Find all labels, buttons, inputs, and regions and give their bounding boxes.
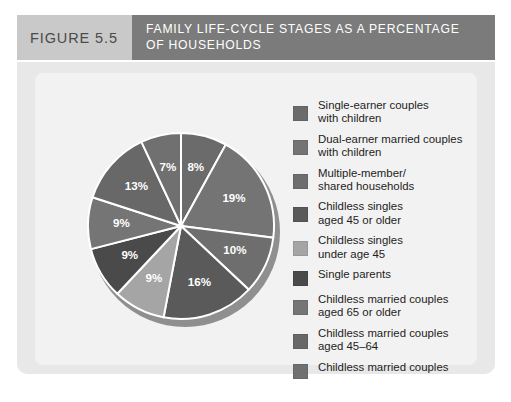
pie-slice-label: 16% [188,275,211,288]
figure-number-cell: FIGURE 5.5 [17,15,132,60]
legend-swatch-icon [293,334,308,349]
chart-legend: Single-earner couples with childrenDual-… [293,99,478,386]
legend-item-label: Single-earner couples with children [318,99,429,126]
legend-item-label: Childless singles under age 45 [318,234,403,261]
figure-number-label: FIGURE 5.5 [30,30,118,46]
pie-slice-label: 10% [223,243,246,256]
figure-title-line-1: FAMILY LIFE-CYCLE STAGES AS A PERCENTAGE [146,22,485,38]
legend-item[interactable]: Childless married couples aged 65 or old… [293,293,478,320]
legend-item[interactable]: Single parents [293,268,478,286]
legend-item[interactable]: Single-earner couples with children [293,99,478,126]
legend-swatch-icon [293,174,308,189]
legend-swatch-icon [293,300,308,315]
legend-swatch-icon [293,364,308,379]
legend-item-label: Single parents [318,268,391,281]
legend-swatch-icon [293,241,308,256]
legend-item-label: Dual-earner married couples with childre… [318,133,462,160]
legend-swatch-icon [293,207,308,222]
figure-title-cell: FAMILY LIFE-CYCLE STAGES AS A PERCENTAGE… [132,15,495,60]
legend-item-label: Childless married couples aged 65 or old… [318,293,448,320]
legend-item[interactable]: Childless married couples [293,361,478,379]
legend-swatch-icon [293,271,308,286]
pie-slice-label: 9% [146,271,163,284]
figure-body-panel: 8%19%10%16%9%9%9%13%7% Single-earner cou… [17,62,495,374]
pie-slice-label: 19% [222,191,245,204]
pie-slice-label: 9% [113,216,130,229]
legend-swatch-icon [293,140,308,155]
legend-item-label: Childless married couples aged 45–64 [318,327,448,354]
pie-slice-label: 7% [160,160,177,173]
legend-item[interactable]: Childless singles aged 45 or older [293,200,478,227]
legend-item[interactable]: Dual-earner married couples with childre… [293,133,478,160]
legend-item-label: Multiple-member/ shared households [318,167,414,194]
legend-item[interactable]: Childless married couples aged 45–64 [293,327,478,354]
legend-swatch-icon [293,106,308,121]
pie-slice-label: 13% [125,179,148,192]
legend-item-label: Childless married couples [318,361,448,374]
pie-slice-label: 8% [187,160,204,173]
pie-slice-label: 9% [121,248,138,261]
figure-container: FIGURE 5.5 FAMILY LIFE-CYCLE STAGES AS A… [0,0,511,402]
figure-title-line-2: OF HOUSEHOLDS [146,38,485,54]
figure-header: FIGURE 5.5 FAMILY LIFE-CYCLE STAGES AS A… [17,15,495,60]
legend-item-label: Childless singles aged 45 or older [318,200,403,227]
figure-content-area: 8%19%10%16%9%9%9%13%7% Single-earner cou… [35,73,477,365]
legend-item[interactable]: Childless singles under age 45 [293,234,478,261]
pie-svg: 8%19%10%16%9%9%9%13%7% [86,131,286,331]
legend-item[interactable]: Multiple-member/ shared households [293,167,478,194]
pie-chart: 8%19%10%16%9%9%9%13%7% [86,131,286,331]
